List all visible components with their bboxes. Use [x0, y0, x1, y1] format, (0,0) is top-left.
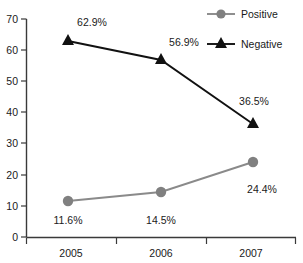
negative-line	[68, 41, 253, 124]
legend-item-positive[interactable]: Positive	[207, 8, 278, 20]
y-axis-tick-label: 0	[12, 231, 18, 243]
positive-data-point-2006[interactable]	[156, 187, 166, 197]
y-axis-tick-label: 10	[6, 200, 18, 212]
line-chart: 70 60 50 40 30 20 10 0 2005 2006 2007	[0, 0, 303, 263]
legend-label-negative: Negative	[241, 38, 283, 50]
y-axis: 70 60 50 40 30 20 10 0	[6, 13, 26, 243]
negative-data-point-2005[interactable]	[62, 34, 74, 45]
x-axis-tick-label: 2006	[149, 247, 173, 259]
y-axis-tick-label: 30	[6, 137, 18, 149]
negative-data-label: 56.9%	[169, 36, 199, 48]
legend-label-positive: Positive	[241, 8, 278, 20]
x-axis: 2005 2006 2007	[27, 238, 297, 260]
y-axis-tick-label: 20	[6, 169, 18, 181]
negative-data-point-2007[interactable]	[247, 117, 259, 128]
positive-data-label: 14.5%	[146, 214, 176, 226]
y-axis-tick-label: 40	[6, 106, 18, 118]
series-positive: 11.6% 14.5% 24.4%	[54, 157, 277, 226]
positive-data-label: 24.4%	[247, 183, 277, 195]
y-axis-tick-label: 70	[6, 13, 18, 25]
y-axis-tick-label: 50	[6, 75, 18, 87]
negative-data-label: 62.9%	[77, 16, 107, 28]
circle-marker-icon	[216, 9, 225, 18]
series-negative: 62.9% 56.9% 36.5%	[62, 16, 269, 128]
negative-data-label: 36.5%	[239, 95, 269, 107]
triangle-marker-icon	[215, 37, 227, 48]
chart-legend: Positive Negative	[207, 8, 283, 50]
y-axis-tick-label: 60	[6, 44, 18, 56]
positive-data-point-2005[interactable]	[63, 196, 73, 206]
x-axis-tick-label: 2007	[239, 247, 263, 259]
x-axis-tick-label: 2005	[59, 247, 83, 259]
positive-data-label: 11.6%	[54, 214, 83, 226]
positive-data-point-2007[interactable]	[248, 157, 258, 167]
chart-screenshot: 70 60 50 40 30 20 10 0 2005 2006 2007	[0, 0, 303, 263]
legend-item-negative[interactable]: Negative	[207, 37, 283, 50]
chart-svg: 70 60 50 40 30 20 10 0 2005 2006 2007	[0, 0, 303, 263]
